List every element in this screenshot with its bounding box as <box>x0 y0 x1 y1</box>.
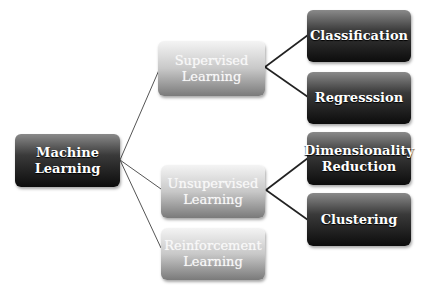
node-label: Classification <box>310 28 408 44</box>
node-label: Supervised <box>175 53 249 68</box>
node-label: Machine <box>36 145 99 160</box>
node-label: Regresssion <box>315 90 403 106</box>
node-regression: Regresssion <box>307 72 411 124</box>
node-label: Learning <box>183 192 243 207</box>
node-label: Unsupervised <box>168 176 259 191</box>
edge-ml-reinforcement <box>120 160 161 248</box>
node-supervised-learning: SupervisedLearning <box>158 41 265 96</box>
node-machine-learning: MachineLearning <box>15 134 120 187</box>
node-reinforcement-learning: ReinforcementLearning <box>161 228 265 280</box>
node-label: Learning <box>183 254 243 269</box>
edge-unsupervised-dimensionality <box>266 158 308 190</box>
node-clustering: Clustering <box>307 193 411 246</box>
node-label: Learning <box>35 161 101 176</box>
node-label: Reinforcement <box>164 238 261 253</box>
node-label: Clustering <box>321 212 398 228</box>
node-unsupervised-learning: UnsupervisedLearning <box>161 165 265 218</box>
node-label: Dimensionality <box>304 143 414 158</box>
edge-ml-unsupervised <box>120 160 161 189</box>
edge-supervised-regression <box>265 67 308 97</box>
node-label: Reduction <box>322 159 397 174</box>
node-classification: Classification <box>307 10 411 62</box>
edge-unsupervised-clustering <box>266 190 308 220</box>
node-dimensionality-reduction: DimensionalityReduction <box>307 132 411 185</box>
edge-ml-supervised <box>120 70 159 160</box>
edge-supervised-classification <box>265 35 308 67</box>
node-label: Learning <box>182 69 242 84</box>
